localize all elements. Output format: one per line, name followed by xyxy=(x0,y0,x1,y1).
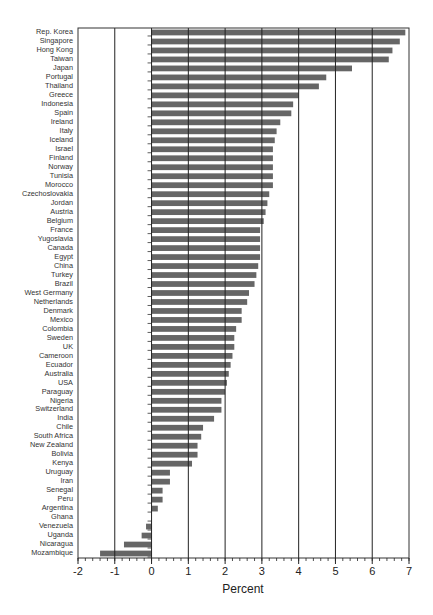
x-tick-label: -2 xyxy=(73,565,83,577)
category-label: Mexico xyxy=(50,316,73,324)
category-label: Venezuela xyxy=(39,522,73,530)
bar xyxy=(152,344,235,350)
bar xyxy=(152,506,158,512)
bar xyxy=(152,110,292,116)
category-label: Paraguay xyxy=(42,388,73,396)
category-label: Tunisia xyxy=(50,172,73,180)
category-label: Austria xyxy=(50,208,73,216)
bar xyxy=(152,353,233,359)
bar xyxy=(152,299,248,305)
category-label: Norway xyxy=(48,163,73,171)
category-label: Greece xyxy=(49,91,73,99)
category-label: Sweden xyxy=(47,334,73,342)
category-label: Ghana xyxy=(51,513,73,521)
category-label: India xyxy=(57,414,73,422)
bar xyxy=(152,425,203,431)
category-label: Morocco xyxy=(45,181,73,189)
bar xyxy=(124,542,152,548)
bar xyxy=(152,317,242,323)
x-tick-label: 1 xyxy=(185,565,191,577)
bar xyxy=(152,191,270,197)
bar xyxy=(152,407,222,413)
x-tick-label: -1 xyxy=(110,565,120,577)
category-label: South Africa xyxy=(34,432,73,440)
category-label: Nicaragua xyxy=(40,540,73,548)
bar xyxy=(152,209,266,215)
bar xyxy=(152,173,273,179)
category-label: Taiwan xyxy=(50,55,73,63)
category-label: Iceland xyxy=(49,136,73,144)
category-label: Peru xyxy=(58,495,73,503)
category-label: Argentina xyxy=(42,504,73,512)
category-label: Canada xyxy=(47,244,73,252)
bar xyxy=(152,281,255,287)
category-label: Singapore xyxy=(40,37,73,45)
category-label: Israel xyxy=(55,145,73,153)
x-tick-label: 6 xyxy=(369,565,375,577)
category-label: Switzerland xyxy=(35,405,73,413)
bar xyxy=(152,200,268,206)
bar xyxy=(152,443,198,449)
bar xyxy=(152,236,260,242)
category-label: New Zealand xyxy=(30,441,73,449)
category-label: Uruguay xyxy=(45,468,73,476)
category-label: Finland xyxy=(49,154,73,162)
category-label: Portugal xyxy=(46,73,73,81)
category-label: Mozambique xyxy=(31,549,73,557)
category-label: West Germany xyxy=(24,289,73,297)
category-label: Jordan xyxy=(51,199,73,207)
category-label: Cameroon xyxy=(39,352,73,360)
bar xyxy=(152,263,259,269)
bar xyxy=(152,155,273,161)
bar xyxy=(152,452,198,458)
bar xyxy=(152,66,352,72)
category-label: Thailand xyxy=(45,82,73,90)
bar xyxy=(152,146,273,152)
bar xyxy=(152,371,229,377)
bar xyxy=(142,533,152,539)
category-label: Italy xyxy=(60,127,73,135)
category-label: USA xyxy=(58,379,73,387)
bar xyxy=(152,326,237,332)
category-label: Rep. Korea xyxy=(36,28,73,36)
bar xyxy=(152,416,215,422)
category-label: Senegal xyxy=(46,486,73,494)
bar xyxy=(152,101,294,107)
category-label: Iran xyxy=(60,477,73,485)
category-label: Colombia xyxy=(42,325,73,333)
x-tick-label: 3 xyxy=(259,565,265,577)
bar xyxy=(152,497,163,503)
bar xyxy=(152,84,319,90)
category-label: Netherlands xyxy=(34,298,73,306)
bar xyxy=(152,48,393,54)
bar xyxy=(146,524,152,530)
bar xyxy=(100,551,151,557)
x-tick-label: 4 xyxy=(296,565,302,577)
category-label: Hong Kong xyxy=(36,46,73,54)
category-label: France xyxy=(50,226,73,234)
bar xyxy=(152,218,264,224)
bar xyxy=(152,254,260,260)
category-label: Belgium xyxy=(47,217,73,225)
bar xyxy=(152,470,170,476)
category-label: Australia xyxy=(45,370,73,378)
x-tick-label: 7 xyxy=(406,565,412,577)
bar xyxy=(152,398,222,404)
category-label: Kenya xyxy=(52,459,73,467)
category-label: Indonesia xyxy=(41,100,73,108)
x-axis-title: Percent xyxy=(222,582,263,596)
category-label: Spain xyxy=(54,109,73,117)
category-label: Turkey xyxy=(51,271,73,279)
category-label: Bolivia xyxy=(52,450,74,458)
x-tick-label: 2 xyxy=(222,565,228,577)
bar xyxy=(152,380,227,386)
bar xyxy=(152,290,249,296)
bar xyxy=(152,57,389,63)
x-tick-label: 5 xyxy=(332,565,338,577)
bar xyxy=(152,137,275,143)
bar xyxy=(152,335,235,341)
bar xyxy=(152,434,202,440)
category-label: Egypt xyxy=(54,253,73,261)
category-label: Denmark xyxy=(43,307,73,315)
bar xyxy=(152,119,281,125)
